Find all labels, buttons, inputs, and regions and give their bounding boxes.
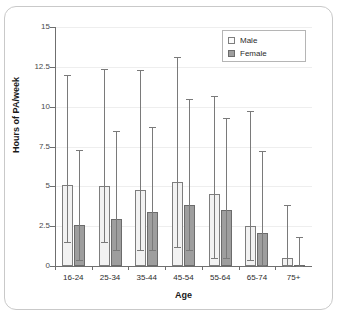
gridline	[56, 147, 312, 148]
error-bar-cap-lower	[174, 247, 181, 248]
y-tick-label: 0	[2, 262, 50, 270]
error-bar-line	[140, 70, 141, 250]
legend-swatch-female-icon	[228, 50, 235, 57]
x-tick	[239, 266, 240, 270]
x-axis-title: Age	[55, 290, 312, 300]
error-bar-line	[250, 111, 251, 259]
error-bar-cap-lower	[223, 258, 230, 259]
x-tick	[55, 266, 56, 270]
error-bar-line	[67, 75, 68, 242]
x-axis-line	[55, 266, 312, 267]
y-tick-label: 15	[2, 23, 50, 31]
error-bar-line	[152, 127, 153, 250]
y-axis-title: Hours of PA/week	[11, 55, 21, 175]
error-bar-line	[226, 118, 227, 258]
error-bar-cap-upper	[174, 57, 181, 58]
y-tick-label: 12.5	[2, 63, 50, 71]
chart-legend: Male Female	[222, 30, 306, 62]
error-bar-cap-upper	[223, 118, 230, 119]
error-bar-cap-upper	[247, 111, 254, 112]
y-tick	[50, 147, 55, 148]
gridline	[56, 27, 312, 28]
y-tick	[50, 186, 55, 187]
error-bar-line	[116, 131, 117, 251]
y-tick-label: 2.5	[2, 222, 50, 230]
error-bar-cap-lower	[259, 265, 266, 266]
legend-item-female: Female	[228, 47, 300, 60]
error-bar-line	[299, 237, 300, 266]
error-bar-cap-lower	[64, 242, 71, 243]
y-tick-label: 5	[2, 182, 50, 190]
error-bar-cap-upper	[284, 205, 291, 206]
error-bar-cap-upper	[259, 151, 266, 152]
legend-swatch-male-icon	[228, 37, 235, 44]
y-tick-label-wrap: 12.5	[0, 63, 50, 71]
error-bar-cap-lower	[211, 258, 218, 259]
error-bar-line	[287, 205, 288, 266]
legend-item-male: Male	[228, 34, 300, 47]
error-bar-cap-upper	[211, 96, 218, 97]
error-bar-cap-lower	[247, 260, 254, 261]
y-tick-label: 10	[2, 103, 50, 111]
gridline	[56, 67, 312, 68]
error-bar-line	[79, 150, 80, 259]
x-tick	[128, 266, 129, 270]
y-tick-label-wrap: 15	[0, 23, 50, 31]
y-tick-label-wrap: 5	[0, 182, 50, 190]
y-tick	[50, 226, 55, 227]
error-bar-cap-lower	[284, 266, 291, 267]
y-tick	[50, 27, 55, 28]
y-tick	[50, 67, 55, 68]
error-bar-line	[104, 69, 105, 242]
x-tick	[165, 266, 166, 270]
error-bar-cap-upper	[296, 237, 303, 238]
y-tick	[50, 107, 55, 108]
y-tick-label-wrap: 10	[0, 103, 50, 111]
legend-label-female: Female	[240, 49, 267, 58]
error-bar-line	[177, 57, 178, 247]
gridline	[56, 186, 312, 187]
error-bar-cap-upper	[149, 127, 156, 128]
x-tick	[275, 266, 276, 270]
error-bar-cap-lower	[76, 260, 83, 261]
error-bar-cap-lower	[101, 242, 108, 243]
x-tick	[92, 266, 93, 270]
error-bar-line	[262, 151, 263, 265]
y-tick-label-wrap: 7.5	[0, 143, 50, 151]
error-bar-cap-upper	[101, 69, 108, 70]
error-bar-cap-lower	[296, 266, 303, 267]
x-tick	[202, 266, 203, 270]
chart-plot-area: 02.557.51012.515 16-2425-3435-4445-5455-…	[0, 0, 339, 322]
legend-label-male: Male	[240, 36, 257, 45]
error-bar-cap-lower	[137, 250, 144, 251]
error-bar-cap-lower	[186, 250, 193, 251]
error-bar-cap-lower	[113, 250, 120, 251]
error-bar-line	[214, 96, 215, 259]
error-bar-cap-upper	[76, 150, 83, 151]
error-bar-cap-upper	[113, 131, 120, 132]
gridline	[56, 107, 312, 108]
error-bar-cap-upper	[137, 70, 144, 71]
error-bar-cap-upper	[186, 99, 193, 100]
error-bar-cap-upper	[64, 75, 71, 76]
error-bar-line	[189, 99, 190, 250]
y-tick-label-wrap: 0	[0, 262, 50, 270]
x-tick-label: 75+	[269, 273, 319, 282]
y-tick-label: 7.5	[2, 143, 50, 151]
error-bar-cap-lower	[149, 250, 156, 251]
y-tick-label-wrap: 2.5	[0, 222, 50, 230]
